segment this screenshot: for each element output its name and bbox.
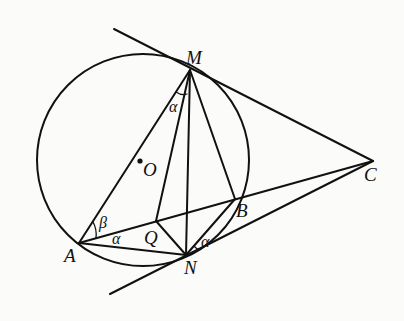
angle-arc-n [194, 246, 198, 249]
point-label-m: M [186, 48, 202, 67]
point-label-o: O [143, 160, 157, 179]
tangent-m-c [114, 29, 373, 161]
point-label-a: A [64, 246, 76, 265]
point-label-q: Q [144, 228, 158, 247]
segment-an [79, 243, 186, 255]
geometry-diagram: M O A Q N B C α β α α [0, 0, 404, 321]
point-label-n: N [184, 258, 197, 277]
angle-label-beta-a: β [99, 215, 107, 231]
angle-label-alpha-a: α [112, 231, 120, 247]
angle-label-alpha-n: α [201, 234, 209, 250]
center-dot-o [137, 158, 142, 163]
segment-mn [186, 70, 190, 255]
diagram-svg [0, 0, 404, 321]
point-label-b: B [236, 201, 248, 220]
angle-arc-a [93, 222, 96, 238]
angle-label-alpha-m: α [169, 99, 177, 115]
segment-nb [186, 199, 235, 255]
segment-qn [156, 221, 186, 255]
point-label-c: C [364, 165, 377, 184]
segment-mq [156, 70, 190, 221]
segment-mb [190, 70, 235, 199]
